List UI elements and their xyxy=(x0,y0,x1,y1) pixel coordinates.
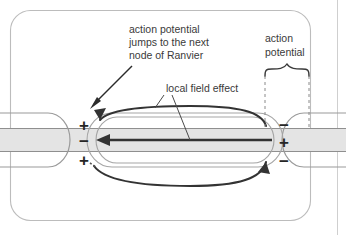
jump-label-line-2: jumps to the next xyxy=(128,36,209,48)
local-field-label: local field effect xyxy=(166,82,238,94)
charge-right-outer-bottom: − xyxy=(279,152,289,171)
charge-left-outer-bottom: + xyxy=(79,151,89,170)
charge-left-inner: − xyxy=(79,132,89,151)
charge-right-inner: + xyxy=(279,133,289,152)
jump-label-line-3: node of Ranvier xyxy=(129,49,204,61)
neuron-saltatory-conduction-diagram: + − + − + − action potential jumps to th… xyxy=(0,0,346,235)
action-potential-label-line-2: potential xyxy=(265,46,305,58)
jump-label-line-1: action potential xyxy=(129,23,200,35)
action-potential-label-line-1: action xyxy=(265,32,293,44)
diagram-canvas: + − + − + − action potential jumps to th… xyxy=(0,0,346,235)
